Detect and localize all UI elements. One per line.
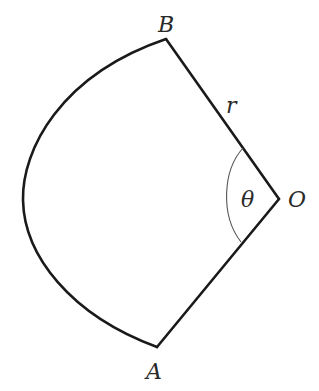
- label-r: r: [226, 93, 238, 118]
- label-a: A: [144, 359, 162, 384]
- label-theta: θ: [241, 187, 254, 212]
- label-o: O: [288, 187, 306, 212]
- radius-ob: [166, 39, 279, 199]
- sector-diagram: B A O r θ: [0, 0, 319, 391]
- radius-oa: [157, 199, 279, 347]
- sector-arc: [23, 39, 166, 347]
- label-b: B: [157, 12, 174, 37]
